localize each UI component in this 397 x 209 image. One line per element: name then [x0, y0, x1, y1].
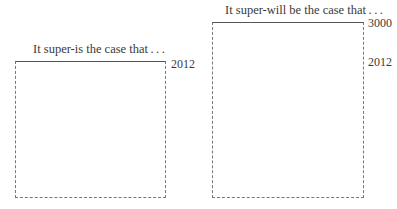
year-label-top: 3000: [368, 16, 392, 31]
year-label-top: 2012: [171, 57, 195, 72]
panel-caption: It super-is the case that . . .: [33, 42, 165, 57]
timeline-box: [15, 61, 166, 198]
year-label-middle: 2012: [368, 55, 392, 70]
timeline-box: [212, 22, 364, 198]
panel-caption: It super-will be the case that . . .: [225, 3, 383, 18]
